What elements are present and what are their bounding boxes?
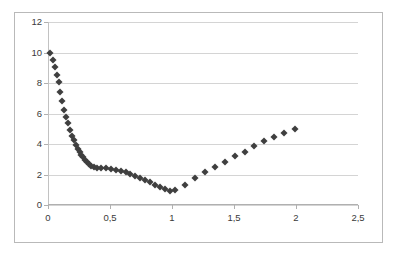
data-point — [47, 49, 54, 56]
gridline-y-4 — [48, 144, 358, 145]
data-point — [241, 148, 248, 155]
x-axis-tick-labels: 00,511,522,5 — [48, 213, 358, 227]
data-point — [61, 106, 68, 113]
x-tick-label-1.5: 1,5 — [227, 213, 240, 223]
x-tick-label-0.5: 0,5 — [103, 213, 116, 223]
y-tick-label-8: 8 — [37, 78, 42, 88]
y-tick-label-2: 2 — [37, 170, 42, 180]
gridline-y-2 — [48, 175, 358, 176]
data-point — [211, 163, 218, 170]
y-tick-label-12: 12 — [31, 17, 42, 27]
data-point — [59, 97, 66, 104]
x-tick-mark-2.5 — [358, 205, 359, 209]
gridline-y-6 — [48, 114, 358, 115]
data-point — [49, 57, 56, 64]
data-point — [231, 153, 238, 160]
data-point — [291, 125, 298, 132]
data-point — [221, 158, 228, 165]
data-point — [271, 134, 278, 141]
data-point — [281, 130, 288, 137]
x-tick-mark-1 — [172, 205, 173, 209]
gridline-y-12 — [48, 22, 358, 23]
y-tick-label-0: 0 — [37, 200, 42, 210]
data-point — [53, 71, 60, 78]
x-axis-tick-marks — [48, 205, 358, 210]
chart-figure: 024681012 00,511,522,5 — [0, 0, 397, 256]
x-tick-label-2: 2 — [293, 213, 298, 223]
x-tick-label-0: 0 — [45, 213, 50, 223]
y-tick-label-4: 4 — [37, 139, 42, 149]
gridline-y-8 — [48, 83, 358, 84]
gridline-y-10 — [48, 53, 358, 54]
x-tick-label-2.5: 2,5 — [351, 213, 364, 223]
y-tick-label-6: 6 — [37, 109, 42, 119]
x-tick-mark-1.5 — [234, 205, 235, 209]
y-tick-label-10: 10 — [31, 48, 42, 58]
data-point — [181, 182, 188, 189]
data-point — [172, 187, 179, 194]
x-tick-label-1: 1 — [169, 213, 174, 223]
x-tick-mark-0 — [48, 205, 49, 209]
x-tick-mark-0.5 — [110, 205, 111, 209]
data-point — [51, 63, 58, 70]
y-axis-tick-labels: 024681012 — [10, 22, 42, 205]
data-point — [55, 79, 62, 86]
x-tick-mark-2 — [296, 205, 297, 209]
plot-area — [48, 22, 358, 205]
data-point — [57, 89, 64, 96]
